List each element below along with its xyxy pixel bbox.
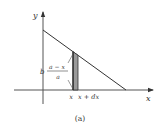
label-leader-top bbox=[68, 54, 73, 63]
y-axis-label: y bbox=[32, 11, 38, 20]
area-strip bbox=[73, 52, 78, 90]
x-axis-label: x bbox=[146, 94, 151, 103]
height-label-prefix: b bbox=[40, 68, 45, 76]
figure-caption: (a) bbox=[75, 114, 85, 123]
label-leader-bottom bbox=[68, 80, 73, 89]
triangle-strip-diagram: y x b a − x a x x + dx (a) bbox=[0, 0, 164, 134]
hypotenuse-line bbox=[43, 30, 126, 90]
strip-left-label: x bbox=[69, 93, 73, 101]
height-label-denominator: a bbox=[56, 73, 60, 80]
diagram-canvas: y x b a − x a x x + dx (a) bbox=[0, 0, 164, 134]
height-label-numerator: a − x bbox=[49, 63, 65, 70]
strip-right-label: x + dx bbox=[78, 93, 99, 101]
